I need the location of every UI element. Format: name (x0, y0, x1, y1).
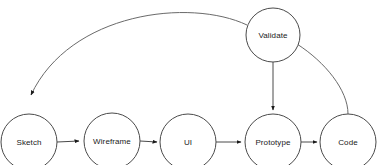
node-sketch-label: Sketch (16, 138, 41, 147)
edge-code-to-validate-path (297, 44, 348, 114)
node-wireframe-label: Wireframe (93, 137, 131, 146)
node-prototype-label: Prototype (255, 138, 291, 147)
node-code[interactable]: Code (320, 114, 376, 165)
node-sketch[interactable]: Sketch (1, 114, 57, 165)
flow-diagram-svg: Validate Sketch Wireframe UI Prototype C… (0, 0, 378, 165)
node-prototype[interactable]: Prototype (245, 114, 301, 165)
edge-wireframe-to-ui-path (140, 141, 157, 142)
edge-validate-to-sketch (31, 13, 247, 95)
node-code-label: Code (338, 138, 358, 147)
edge-code-to-validate (297, 44, 348, 114)
node-ui-label: UI (184, 138, 192, 147)
flow-diagram-canvas: Validate Sketch Wireframe UI Prototype C… (0, 0, 378, 165)
edge-sketch-to-wireframe (57, 141, 79, 142)
edge-wireframe-to-ui (140, 141, 157, 142)
edge-validate-to-sketch-path (31, 13, 247, 95)
edge-sketch-to-wireframe-path (57, 141, 79, 142)
node-validate[interactable]: Validate (246, 8, 300, 62)
node-wireframe[interactable]: Wireframe (84, 113, 140, 165)
node-validate-label: Validate (258, 31, 288, 40)
node-ui[interactable]: UI (160, 114, 216, 165)
